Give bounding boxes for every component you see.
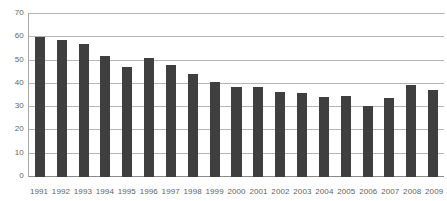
bar[interactable] xyxy=(210,82,220,177)
x-axis-tick-label: 2002 xyxy=(271,187,289,196)
x-axis-tick-slot: 2007 xyxy=(379,180,401,196)
bar-slot xyxy=(291,14,313,177)
x-axis-tick-slot: 1997 xyxy=(160,180,182,196)
bar-slot xyxy=(95,14,117,177)
x-axis-tick-slot: 1994 xyxy=(94,180,116,196)
x-axis-tick-label: 2003 xyxy=(293,187,311,196)
bar-slot xyxy=(29,14,51,177)
x-axis-tick-label: 2008 xyxy=(403,187,421,196)
y-axis-tick-label: 30 xyxy=(15,102,24,110)
bar-slot xyxy=(335,14,357,177)
y-axis-tick-label: 60 xyxy=(15,32,24,40)
x-axis-tick-slot: 2001 xyxy=(248,180,270,196)
y-axis-tick-label: 50 xyxy=(15,56,24,64)
x-axis-tick-slot: 2006 xyxy=(357,180,379,196)
bar-slot xyxy=(226,14,248,177)
x-axis-tick-label: 1998 xyxy=(184,187,202,196)
bar-slot xyxy=(138,14,160,177)
bar[interactable] xyxy=(253,87,263,177)
x-axis-tick-slot: 1999 xyxy=(204,180,226,196)
bar[interactable] xyxy=(297,93,307,177)
bar[interactable] xyxy=(166,65,176,177)
bar-slot xyxy=(160,14,182,177)
bar[interactable] xyxy=(428,90,438,177)
bar-slot xyxy=(73,14,95,177)
bar[interactable] xyxy=(79,44,89,177)
bar-slot xyxy=(357,14,379,177)
x-axis-tick-label: 1999 xyxy=(206,187,224,196)
x-axis-tick-slot: 2002 xyxy=(269,180,291,196)
bar[interactable] xyxy=(384,98,394,177)
y-axis-tick-label: 70 xyxy=(15,9,24,17)
bars-layer xyxy=(29,14,444,177)
x-axis-tick-label: 1993 xyxy=(74,187,92,196)
x-axis-tick-label: 2006 xyxy=(359,187,377,196)
x-axis-tick-slot: 2008 xyxy=(401,180,423,196)
bar[interactable] xyxy=(363,106,373,177)
y-axis-tick-label: 0 xyxy=(19,172,24,180)
x-axis-tick-slot: 1995 xyxy=(116,180,138,196)
x-axis-tick-slot: 1993 xyxy=(72,180,94,196)
x-axis-tick-label: 1991 xyxy=(30,187,48,196)
x-axis-tick-slot: 2005 xyxy=(335,180,357,196)
bar[interactable] xyxy=(275,92,285,177)
x-axis-tick-label: 1994 xyxy=(96,187,114,196)
bar-slot xyxy=(422,14,444,177)
bar-slot xyxy=(116,14,138,177)
bar-chart: 010203040506070 199119921993199419951996… xyxy=(0,0,447,201)
bar[interactable] xyxy=(100,56,110,177)
bar[interactable] xyxy=(144,58,154,177)
x-axis-tick-label: 1997 xyxy=(162,187,180,196)
bar[interactable] xyxy=(319,97,329,177)
x-axis-tick-label: 1996 xyxy=(140,187,158,196)
x-axis-tick-slot: 1991 xyxy=(28,180,50,196)
x-axis-tick-slot: 2004 xyxy=(313,180,335,196)
y-axis: 010203040506070 xyxy=(0,0,28,201)
x-axis-tick-label: 1992 xyxy=(52,187,70,196)
y-axis-tick-label: 40 xyxy=(15,79,24,87)
x-axis-tick-slot: 2009 xyxy=(423,180,445,196)
bar[interactable] xyxy=(341,96,351,177)
x-axis-tick-label: 2005 xyxy=(337,187,355,196)
bar[interactable] xyxy=(406,85,416,177)
bar-slot xyxy=(51,14,73,177)
x-axis-tick-label: 2000 xyxy=(227,187,245,196)
bar[interactable] xyxy=(57,40,67,177)
bar[interactable] xyxy=(35,37,45,177)
x-axis-tick-label: 1995 xyxy=(118,187,136,196)
y-axis-tick-label: 10 xyxy=(15,149,24,157)
bar[interactable] xyxy=(188,74,198,177)
bar-slot xyxy=(269,14,291,177)
x-axis: 1991199219931994199519961997199819992000… xyxy=(28,180,445,196)
x-axis-tick-label: 2009 xyxy=(425,187,443,196)
bar-slot xyxy=(400,14,422,177)
x-axis-tick-slot: 2003 xyxy=(291,180,313,196)
x-axis-tick-slot: 1996 xyxy=(138,180,160,196)
bar-slot xyxy=(204,14,226,177)
x-axis-tick-slot: 1992 xyxy=(50,180,72,196)
plot-area xyxy=(28,13,445,177)
bar-slot xyxy=(379,14,401,177)
y-axis-tick-label: 20 xyxy=(15,125,24,133)
bar-slot xyxy=(313,14,335,177)
bar[interactable] xyxy=(122,67,132,177)
x-axis-tick-slot: 1998 xyxy=(182,180,204,196)
bar[interactable] xyxy=(231,87,241,177)
x-axis-tick-slot: 2000 xyxy=(226,180,248,196)
x-axis-tick-label: 2007 xyxy=(381,187,399,196)
x-axis-tick-label: 2004 xyxy=(315,187,333,196)
x-axis-tick-label: 2001 xyxy=(249,187,267,196)
bar-slot xyxy=(247,14,269,177)
bar-slot xyxy=(182,14,204,177)
